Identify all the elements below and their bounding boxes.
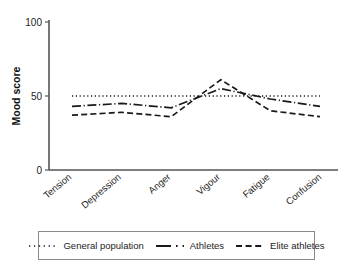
series-line-elite-athletes (72, 80, 320, 117)
legend-label-athletes: Athletes (190, 240, 224, 251)
x-category-label-depression: Depression (79, 171, 123, 210)
legend-swatch-dotted-icon (28, 242, 58, 250)
mood-profile-chart-figure: 100 50 0 Mood score Tension Depression A… (0, 0, 355, 277)
legend-label-general-population: General population (63, 240, 143, 251)
plot-area: 100 50 0 Mood score Tension Depression A… (0, 0, 355, 225)
legend-entry-athletes: Athletes (155, 240, 224, 251)
line-chart-svg: 100 50 0 Mood score Tension Depression A… (0, 0, 355, 225)
y-tick-label-100: 100 (25, 17, 42, 28)
x-category-label-vigour: Vigour (194, 171, 222, 197)
x-category-label-fatigue: Fatigue (240, 171, 271, 200)
x-category-label-anger: Anger (146, 171, 172, 196)
y-axis-title: Mood score (10, 66, 22, 125)
legend-swatch-dashed-icon (235, 242, 265, 250)
legend-swatch-dash-dot-icon (155, 242, 185, 250)
legend-entry-elite-athletes: Elite athletes (235, 240, 324, 251)
x-category-label-confusion: Confusion (283, 171, 323, 207)
y-tick-label-50: 50 (31, 91, 43, 102)
y-tick-label-0: 0 (36, 165, 42, 176)
chart-legend: General population Athletes Elite athlet… (38, 231, 315, 260)
legend-entry-general-population: General population (28, 240, 143, 251)
legend-label-elite-athletes: Elite athletes (270, 240, 324, 251)
x-category-label-tension: Tension (41, 171, 73, 200)
